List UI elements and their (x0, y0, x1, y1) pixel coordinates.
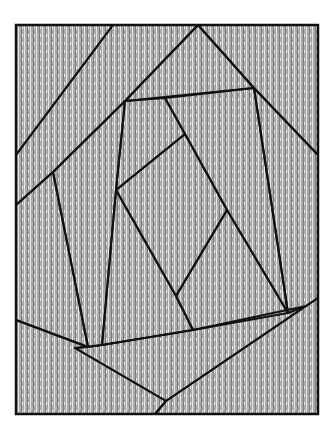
quilt-background (16, 25, 318, 414)
quilt-artwork (0, 0, 336, 432)
